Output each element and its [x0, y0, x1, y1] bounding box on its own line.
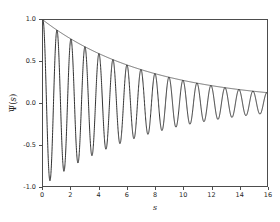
- x-tick-label: 10: [179, 191, 187, 199]
- x-tick-label: 2: [68, 191, 72, 199]
- y-tick-label: -0.5: [0, 141, 36, 149]
- x-tick-mark: [240, 187, 241, 190]
- y-tick-label: 0.5: [0, 57, 36, 65]
- x-tick-mark: [155, 187, 156, 190]
- figure-canvas: 0246810121416-1.0-0.50.00.51.0 s Ψ(s): [0, 0, 280, 222]
- curve-layer: [43, 20, 267, 186]
- y-tick-mark: [39, 187, 42, 188]
- x-tick-label: 8: [153, 191, 157, 199]
- x-tick-mark: [99, 187, 100, 190]
- x-tick-label: 4: [96, 191, 100, 199]
- envelope-curve: [43, 20, 267, 93]
- x-tick-label: 12: [207, 191, 215, 199]
- x-tick-mark: [42, 187, 43, 190]
- y-tick-mark: [39, 145, 42, 146]
- damped-oscillation-curve: [43, 20, 267, 181]
- y-tick-label: 1.0: [0, 15, 36, 23]
- x-tick-label: 6: [125, 191, 129, 199]
- y-axis-label: Ψ(s): [8, 94, 18, 112]
- x-tick-mark: [212, 187, 213, 190]
- y-tick-mark: [39, 19, 42, 20]
- x-tick-mark: [268, 187, 269, 190]
- y-tick-label: -1.0: [0, 183, 36, 191]
- x-tick-label: 14: [236, 191, 244, 199]
- x-tick-label: 16: [264, 191, 272, 199]
- x-tick-mark: [70, 187, 71, 190]
- y-tick-mark: [39, 103, 42, 104]
- y-tick-mark: [39, 61, 42, 62]
- x-tick-mark: [183, 187, 184, 190]
- x-tick-label: 0: [40, 191, 44, 199]
- plot-area: [42, 19, 268, 187]
- x-tick-mark: [127, 187, 128, 190]
- x-axis-label: s: [153, 203, 157, 212]
